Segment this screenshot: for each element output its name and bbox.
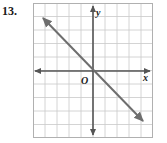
x-axis-label: x bbox=[142, 72, 148, 83]
coordinate-graph-svg: O x y bbox=[33, 3, 153, 138]
y-axis-label: y bbox=[95, 7, 101, 18]
worksheet-problem-figure: 13. bbox=[0, 0, 167, 143]
origin-label: O bbox=[81, 75, 88, 86]
problem-number: 13. bbox=[2, 5, 17, 17]
coordinate-graph: O x y bbox=[33, 3, 153, 138]
